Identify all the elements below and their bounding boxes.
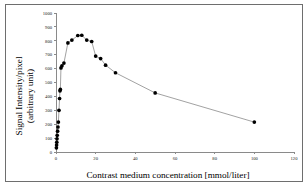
y-axis-tick-label: 300 [45,108,53,113]
x-axis-tick-label: 0 [55,156,58,161]
data-point-marker [55,137,59,141]
y-axis-tick-label: 800 [45,39,53,44]
data-point-marker [252,120,256,124]
data-point-marker [58,97,62,101]
x-axis-title: Contrast medium concentration [mmol/lite… [86,170,249,180]
data-point-marker [104,63,108,67]
data-point-marker [80,33,84,37]
y-axis-title-line1: Signal Intensity/pixel [14,56,24,135]
data-point-marker [90,40,94,44]
y-axis-tick-labels: 01002003004005006007008009001000 [43,11,53,155]
data-point-marker [56,125,60,129]
y-axis-tick-label: 500 [45,80,53,85]
data-point-marker [55,140,59,144]
data-point-marker [56,129,60,133]
data-point-marker [153,91,157,95]
y-axis-tick-label: 400 [45,94,53,99]
x-axis-tick-labels: 020406080100120 [55,156,298,161]
y-axis-tick-label: 900 [45,25,53,30]
data-point-marker [57,120,61,124]
data-point-marker [94,54,98,58]
x-axis-tick-label: 100 [251,156,259,161]
data-point-marker [70,38,74,42]
data-point-marker [66,41,70,45]
y-axis-tick-label: 600 [45,66,53,71]
y-axis-tick-label: 0 [50,150,53,155]
data-point-markers [55,33,257,149]
axis-lines [54,13,294,154]
x-axis-tick-label: 80 [212,156,217,161]
x-axis-tick-label: 60 [173,156,178,161]
data-point-marker [62,61,66,65]
x-axis-tick-label: 20 [93,156,98,161]
y-axis-title-line2: (arbitrary unit) [25,69,35,123]
x-axis-tick-label: 120 [291,156,299,161]
y-axis-tick-label: 100 [45,136,53,141]
data-point-marker [76,34,80,38]
data-point-marker [59,88,63,92]
chart-plot-area: 01002003004005006007008009001000 0204060… [0,0,308,188]
data-point-marker [85,38,89,42]
y-axis-tick-label: 200 [45,122,53,127]
y-axis-tick-label: 1000 [43,11,53,16]
figure-container: 01002003004005006007008009001000 0204060… [0,0,308,188]
x-axis-tick-label: 40 [133,156,138,161]
data-point-marker [99,57,103,61]
data-point-marker [55,133,59,137]
data-point-marker [57,108,61,112]
y-axis-tick-label: 700 [45,52,53,57]
data-point-marker [114,71,118,75]
